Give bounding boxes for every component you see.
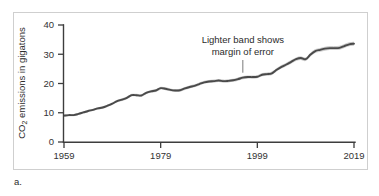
x-tick-label: 1979 — [150, 150, 171, 161]
y-tick-label: 30 — [43, 49, 54, 60]
y-tick-label: 40 — [43, 19, 54, 30]
y-tick-label: 20 — [43, 78, 54, 89]
chart-panel: 010203040 CO2 emissions in gigatons 1959… — [13, 12, 368, 170]
y-tick-label: 10 — [43, 107, 54, 118]
x-tick-group: 1959197919992019 — [53, 142, 364, 161]
y-tick-group: 010203040 — [43, 19, 64, 147]
x-tick-label: 1959 — [53, 150, 74, 161]
annotation-line-2: margin of error — [212, 46, 274, 57]
co2-emissions-line — [64, 44, 354, 116]
data-line-group — [64, 44, 354, 116]
figure-container: 010203040 CO2 emissions in gigatons 1959… — [0, 0, 379, 196]
chart-annotation: Lighter band shows margin of error — [202, 34, 285, 73]
x-tick-label: 1999 — [247, 150, 268, 161]
y-tick-label: 0 — [49, 136, 54, 147]
y-axis-title: CO2 emissions in gigatons — [16, 27, 28, 139]
y-axis: 010203040 CO2 emissions in gigatons — [16, 19, 64, 147]
annotation-line-1: Lighter band shows — [202, 34, 285, 45]
x-tick-label: 2019 — [343, 150, 364, 161]
co2-emissions-line-chart: 010203040 CO2 emissions in gigatons 1959… — [14, 13, 367, 169]
figure-caption: a. — [14, 176, 22, 187]
x-axis: 1959197919992019 — [53, 142, 364, 161]
